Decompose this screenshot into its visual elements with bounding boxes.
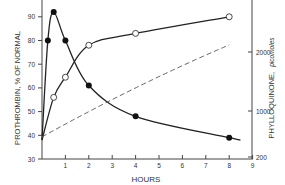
phylloquinone-line: [42, 45, 229, 137]
filled-circle-marker: [51, 9, 57, 15]
y2-axis-label-unit: picomoles: [268, 37, 276, 68]
x-ticks: 123456789: [64, 155, 255, 169]
filled-circle-marker: [62, 38, 68, 44]
open-circle-marker: [133, 30, 139, 36]
y-tick-label: 60: [28, 84, 36, 91]
x-tick-label: 8: [227, 162, 231, 169]
filled-circle-marker: [226, 135, 232, 141]
filled-circle-marker: [133, 113, 139, 119]
x-tick-label: 4: [134, 162, 138, 169]
filled-circle-marker: [86, 83, 92, 89]
y2-axis-label-main: PHYLLOQUINONE,: [267, 72, 276, 139]
y-tick-label: 30: [28, 156, 36, 163]
y2-tick-label: 200: [256, 154, 267, 161]
y-tick-label: 70: [28, 61, 36, 68]
open-circle-marker: [86, 42, 92, 48]
x-tick-label: 7: [204, 162, 208, 169]
y-tick-label: 40: [28, 132, 36, 139]
x-tick-label: 5: [157, 162, 161, 169]
open-circle-marker: [62, 74, 68, 80]
chart: 30405060708090 123456789 20010002000 HOU…: [0, 0, 285, 185]
x-tick-label: 9: [251, 162, 255, 169]
y2-axis-label: PHYLLOQUINONE, picomoles: [267, 37, 276, 139]
x-tick-label: 3: [110, 162, 114, 169]
x-tick-label: 6: [181, 162, 185, 169]
y-tick-label: 50: [28, 108, 36, 115]
open-circle-marker: [51, 94, 57, 100]
y-axis-label: PROTHROMBIN, % OF NORMAL: [13, 31, 22, 145]
x-axis-label: HOURS: [132, 175, 161, 184]
filled-circle-marker: [45, 38, 51, 44]
y-tick-label: 80: [28, 37, 36, 44]
open-circle-marker: [226, 14, 232, 20]
y-ticks-left: 30405060708090: [28, 13, 42, 162]
x-tick-label: 1: [64, 162, 68, 169]
y-tick-label: 90: [28, 13, 36, 20]
series-layer: [42, 9, 240, 141]
series-3: [42, 45, 229, 137]
x-tick-label: 2: [87, 162, 91, 169]
